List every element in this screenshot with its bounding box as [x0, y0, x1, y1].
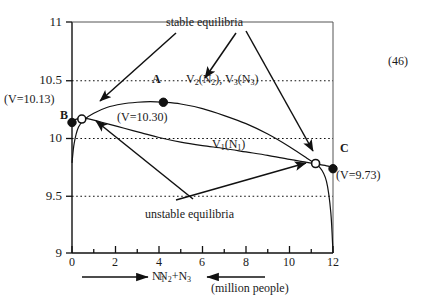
x-axis-label-n2-text: N — [159, 269, 168, 283]
series-label-v1-text: V — [212, 137, 221, 151]
unstable-arrows — [96, 121, 306, 200]
x-axis-label-n3-sub: 3 — [187, 275, 191, 284]
annotation-unstable-equilibria: unstable equilibria — [145, 208, 234, 220]
equilibrium-markers — [68, 98, 337, 173]
point-value-C: (V=9.73) — [336, 169, 380, 181]
series-label-v3-mid: (N — [238, 72, 251, 86]
y-tick-label-10: 10 — [20, 131, 62, 144]
x-tick-label-10: 10 — [279, 256, 299, 268]
y-tick-label-9: 9 — [20, 246, 62, 259]
point-label-C: C — [340, 142, 349, 154]
annotation-stable-equilibria: stable equilibria — [166, 16, 243, 28]
gridlines — [72, 81, 333, 197]
point-value-A: (V=10.30) — [117, 111, 167, 123]
equilibrium-point-A — [159, 98, 167, 106]
point-value-B: (V=10.13) — [4, 93, 54, 105]
equation-number: (46) — [388, 55, 408, 67]
equilibrium-point-u1 — [78, 115, 86, 123]
stable-arrows — [100, 31, 313, 151]
x-axis-ticks — [72, 246, 333, 253]
x-tick-label-12: 12 — [323, 256, 343, 268]
series-label-v2-v3: V2(N2), V3(N3) — [186, 73, 258, 87]
x-axis-units-label: (million people) — [211, 282, 289, 294]
series-label-v1-mid: (N — [225, 137, 238, 151]
x-tick-label-2: 2 — [105, 256, 125, 268]
curve-v1 — [72, 118, 333, 168]
y-tick-label-11: 11 — [20, 15, 62, 28]
point-label-A: A — [152, 73, 161, 85]
equilibrium-point-u2 — [312, 159, 320, 167]
series-label-v2-mid2: ), V — [215, 72, 233, 86]
y-tick-label-9-5: 9.5 — [20, 189, 62, 202]
x-tick-label-0: 0 — [62, 256, 82, 268]
x-axis-label-plus-n3: +N — [172, 269, 187, 283]
y-axis-ticks — [66, 22, 72, 253]
series-label-v1: V1(N1) — [212, 138, 245, 152]
series-label-v2-v3-text: V — [186, 72, 195, 86]
series-label-v2-mid: (N — [199, 72, 212, 86]
point-label-B: B — [60, 109, 68, 121]
figure-canvas: 11 10.5 10 9.5 9 0 2 4 6 8 10 12 stable … — [0, 0, 426, 300]
x-tick-label-4: 4 — [149, 256, 169, 268]
x-tick-label-6: 6 — [192, 256, 212, 268]
series-label-v3-end: ) — [254, 72, 258, 86]
x-tick-label-8: 8 — [236, 256, 256, 268]
equilibrium-point-B — [68, 118, 76, 126]
y-tick-label-10-5: 10.5 — [20, 73, 62, 86]
series-label-v1-end: ) — [241, 137, 245, 151]
